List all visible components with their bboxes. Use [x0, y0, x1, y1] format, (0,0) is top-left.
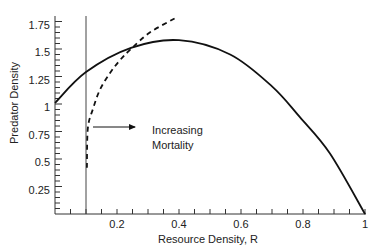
y-tick-label: 1	[44, 101, 50, 113]
x-tick-label: 0.2	[109, 218, 124, 230]
y-tick-label: 1.5	[35, 46, 50, 58]
annotation-line-2: Mortality	[152, 139, 194, 151]
x-minor-ticks	[71, 209, 366, 214]
x-axis	[55, 209, 366, 214]
y-minor-ticks	[55, 22, 62, 209]
x-tick-label: 0.4	[171, 218, 186, 230]
y-tick-label: 0.25	[29, 184, 50, 196]
y-tick-label: 1.25	[29, 74, 50, 86]
x-tick-label: 0.8	[295, 218, 310, 230]
y-axis	[55, 16, 62, 214]
x-tick-label: 0.6	[233, 218, 248, 230]
y-tick-labels: 0.25 0.5 0.75 1 1.25 1.5 1.75	[29, 19, 50, 196]
x-tick-label: 1	[362, 218, 368, 230]
y-tick-label: 1.75	[29, 19, 50, 31]
y-axis-label: Predator Density	[8, 62, 20, 144]
x-axis-label: Resource Density, R	[158, 233, 258, 245]
annotation-line-1: Increasing	[152, 124, 203, 136]
x-tick-labels: 0.2 0.4 0.6 0.8 1	[109, 218, 368, 230]
y-tick-label: 0.5	[35, 156, 50, 168]
isocline-chart: 0.25 0.5 0.75 1 1.25 1.5 1.75 0.2 0.4 0.…	[0, 0, 378, 252]
y-tick-label: 0.75	[29, 129, 50, 141]
